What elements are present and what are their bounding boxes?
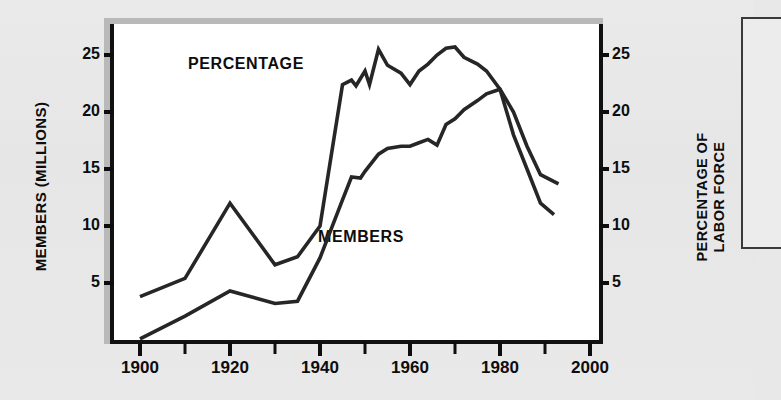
y-tick-label-right-25: 25 bbox=[612, 45, 660, 63]
series-label-percentage: PERCENTAGE bbox=[188, 55, 304, 73]
y-axis-right-title-line1: PERCENTAGE OF bbox=[694, 133, 710, 262]
x-tick-label-1980: 1980 bbox=[470, 358, 530, 378]
y-tick-label-right-5: 5 bbox=[612, 273, 660, 291]
y-tick-label-left-5: 5 bbox=[52, 273, 100, 291]
x-tick-label-1960: 1960 bbox=[380, 358, 440, 378]
y-tick-label-left-10: 10 bbox=[52, 216, 100, 234]
adjacent-cropped-panel bbox=[741, 17, 781, 249]
y-tick-label-right-20: 20 bbox=[612, 102, 660, 120]
x-tick-label-1920: 1920 bbox=[200, 358, 260, 378]
y-axis-right-title: PERCENTAGE OF LABOR FORCE bbox=[694, 82, 728, 312]
x-tick-label-1940: 1940 bbox=[290, 358, 350, 378]
y-tick-label-right-10: 10 bbox=[612, 216, 660, 234]
y-tick-label-left-25: 25 bbox=[52, 45, 100, 63]
y-axis-right-title-line2: LABOR FORCE bbox=[711, 142, 727, 253]
y-axis-left-title: MEMBERS (MILLIONS) bbox=[32, 72, 49, 302]
plot-frame bbox=[110, 24, 603, 344]
x-tick-label-1900: 1900 bbox=[110, 358, 170, 378]
y-tick-label-left-20: 20 bbox=[52, 102, 100, 120]
series-label-members: MEMBERS bbox=[318, 228, 404, 246]
y-tick-label-left-15: 15 bbox=[52, 159, 100, 177]
y-tick-label-right-15: 15 bbox=[612, 159, 660, 177]
x-tick-label-2000: 2000 bbox=[560, 358, 620, 378]
